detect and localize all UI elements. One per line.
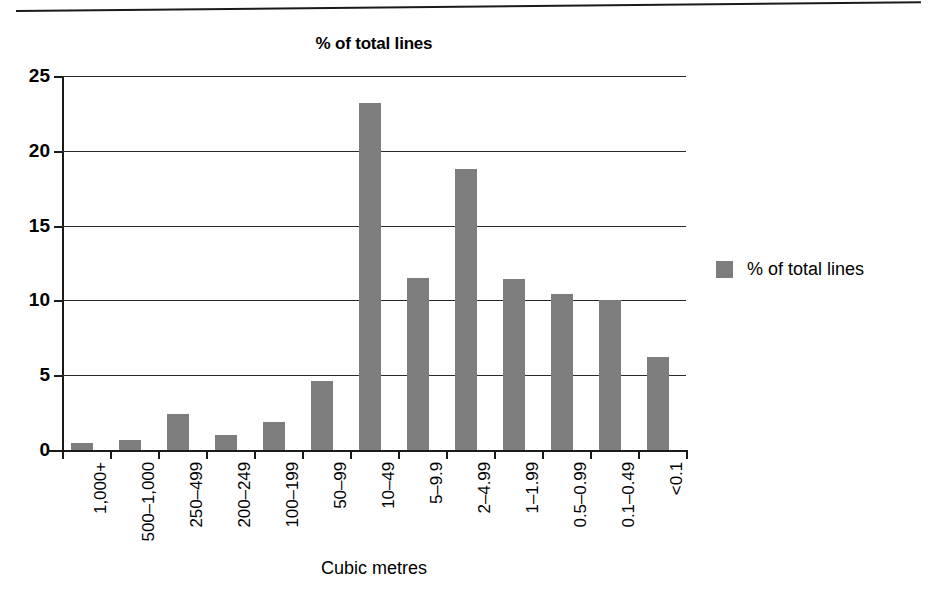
bar bbox=[311, 381, 333, 450]
x-axis-tick-label: 200–249 bbox=[235, 462, 255, 527]
bar bbox=[551, 294, 573, 450]
x-axis-tick-label: 0.1–0.49 bbox=[619, 462, 639, 527]
bar-chart-figure: % of total lines 0510152025 1,000+500–1,… bbox=[0, 0, 932, 605]
bar bbox=[359, 103, 381, 450]
x-axis-tick-label: 10–49 bbox=[379, 462, 399, 509]
x-axis-tick-mark bbox=[206, 450, 208, 459]
bar bbox=[71, 443, 93, 450]
chart-legend: % of total lines bbox=[716, 259, 864, 280]
x-axis-tick-mark bbox=[398, 450, 400, 459]
bar bbox=[647, 357, 669, 450]
x-axis-tick-mark bbox=[494, 450, 496, 459]
bar bbox=[119, 440, 141, 450]
bar-series bbox=[62, 76, 686, 450]
y-axis-tick-label: 5 bbox=[39, 364, 50, 386]
x-axis-tick-label: 5–9.9 bbox=[427, 462, 447, 504]
legend-swatch-total-lines bbox=[716, 261, 733, 278]
y-axis-tick-label: 15 bbox=[29, 215, 50, 237]
x-axis-tick-label: 1,000+ bbox=[91, 462, 111, 514]
x-axis-line bbox=[48, 450, 688, 452]
y-axis-tick-labels: 0510152025 bbox=[0, 76, 50, 450]
bar bbox=[263, 422, 285, 450]
y-axis-tick-label: 10 bbox=[29, 289, 50, 311]
y-axis-tick-label: 25 bbox=[29, 65, 50, 87]
y-axis-tick-label: 20 bbox=[29, 140, 50, 162]
x-axis-title: Cubic metres bbox=[62, 558, 686, 579]
x-axis-tick-label: 1–1.99 bbox=[523, 462, 543, 513]
x-axis-tick-label: 2–4.99 bbox=[475, 462, 495, 513]
bar bbox=[407, 278, 429, 450]
x-axis-tick-label: <0.1 bbox=[667, 462, 687, 495]
x-axis-tick-mark bbox=[302, 450, 304, 459]
x-axis-tick-label: 0.5–0.99 bbox=[571, 462, 591, 527]
bar bbox=[167, 414, 189, 450]
x-axis-tick-mark bbox=[542, 450, 544, 459]
x-axis-tick-mark bbox=[350, 450, 352, 459]
bar bbox=[599, 300, 621, 450]
x-axis-tick-label: 250–499 bbox=[187, 462, 207, 527]
bar bbox=[455, 169, 477, 450]
chart-title: % of total lines bbox=[62, 34, 686, 54]
x-axis-tick-mark bbox=[158, 450, 160, 459]
x-axis-tick-label: 500–1,000 bbox=[139, 462, 159, 541]
x-axis-tick-mark bbox=[110, 450, 112, 459]
x-axis-tick-mark bbox=[638, 450, 640, 459]
x-axis-tick-mark bbox=[62, 450, 64, 459]
bar bbox=[215, 435, 237, 450]
plot-area bbox=[62, 76, 686, 450]
x-axis-tick-mark bbox=[446, 450, 448, 459]
bar bbox=[503, 279, 525, 450]
legend-label-total-lines: % of total lines bbox=[747, 259, 864, 280]
x-axis-tick-label: 50–99 bbox=[331, 462, 351, 509]
x-axis-tick-mark bbox=[686, 450, 688, 459]
x-axis-tick-mark bbox=[254, 450, 256, 459]
x-axis-tick-mark bbox=[590, 450, 592, 459]
x-axis-tick-label: 100–199 bbox=[283, 462, 303, 527]
